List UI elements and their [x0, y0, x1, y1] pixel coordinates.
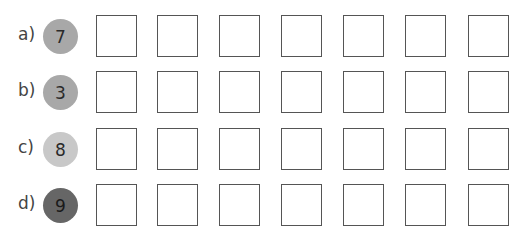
answer-box[interactable]: [405, 128, 446, 170]
answer-box[interactable]: [96, 71, 137, 113]
answer-box[interactable]: [281, 15, 322, 57]
answer-box[interactable]: [219, 15, 260, 57]
row-label: d): [18, 193, 40, 213]
row-label: c): [18, 137, 40, 157]
exercise-row: a)7: [0, 15, 523, 58]
answer-box[interactable]: [96, 128, 137, 170]
answer-box[interactable]: [157, 71, 198, 113]
answer-box[interactable]: [157, 128, 198, 170]
answer-box[interactable]: [343, 15, 384, 57]
answer-box[interactable]: [468, 128, 509, 170]
answer-box[interactable]: [468, 15, 509, 57]
answer-box[interactable]: [343, 71, 384, 113]
number-circle: 3: [43, 75, 78, 110]
answer-box[interactable]: [96, 15, 137, 57]
answer-box[interactable]: [219, 71, 260, 113]
answer-box[interactable]: [405, 71, 446, 113]
answer-box[interactable]: [219, 128, 260, 170]
answer-box[interactable]: [219, 184, 260, 226]
answer-box[interactable]: [281, 71, 322, 113]
answer-box[interactable]: [281, 184, 322, 226]
answer-box[interactable]: [468, 184, 509, 226]
row-label: b): [18, 80, 40, 100]
answer-box[interactable]: [343, 128, 384, 170]
number-circle: 8: [43, 132, 78, 167]
exercise-row: c)8: [0, 128, 523, 171]
exercise-row: b)3: [0, 71, 523, 114]
answer-box[interactable]: [405, 184, 446, 226]
number-circle: 7: [43, 19, 78, 54]
answer-box[interactable]: [96, 184, 137, 226]
exercise-row: d)9: [0, 184, 523, 227]
answer-box[interactable]: [405, 15, 446, 57]
answer-box[interactable]: [343, 184, 384, 226]
answer-box[interactable]: [281, 128, 322, 170]
answer-box[interactable]: [157, 184, 198, 226]
row-label: a): [18, 24, 40, 44]
answer-box[interactable]: [157, 15, 198, 57]
answer-box[interactable]: [468, 71, 509, 113]
number-circle: 9: [43, 188, 78, 223]
